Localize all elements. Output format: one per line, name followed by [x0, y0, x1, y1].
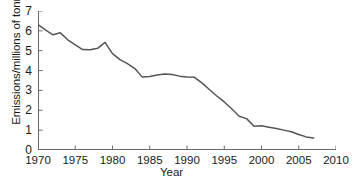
plot-svg	[38, 11, 336, 150]
x-tick-label: 1980	[93, 154, 133, 166]
x-axis-title: Year	[0, 166, 343, 178]
x-tick-label: 1975	[55, 154, 95, 166]
emissions-data-line	[38, 25, 314, 139]
plot-area	[38, 11, 336, 150]
y-axis-ticks	[39, 11, 43, 150]
y-tick-label: 2	[10, 104, 32, 116]
y-tick-label: 3	[10, 84, 32, 96]
x-tick-label: 2005	[279, 154, 319, 166]
y-tick-label: 7	[10, 5, 32, 17]
x-tick-label: 2000	[242, 154, 282, 166]
y-tick-label: 6	[10, 25, 32, 37]
x-tick-label: 1985	[130, 154, 170, 166]
x-tick-label: 1995	[204, 154, 244, 166]
x-tick-label: 1970	[18, 154, 58, 166]
y-tick-label: 5	[10, 45, 32, 57]
y-tick-label: 1	[10, 124, 32, 136]
x-tick-label: 2010	[316, 154, 354, 166]
x-axis-ticks	[38, 146, 336, 150]
y-tick-label: 4	[10, 65, 32, 77]
x-tick-label: 1990	[167, 154, 207, 166]
